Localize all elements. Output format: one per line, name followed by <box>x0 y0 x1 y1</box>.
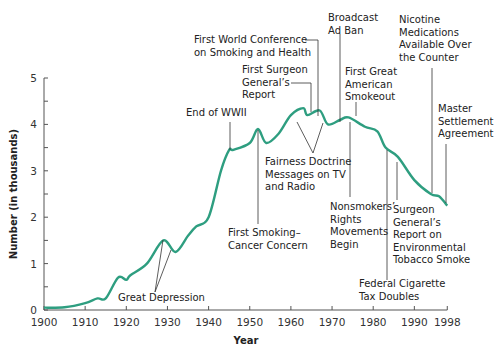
annotation-text: the Counter <box>399 52 459 63</box>
annotation-text: Federal Cigarette <box>359 278 445 289</box>
x-tick-label: 1980 <box>360 316 387 328</box>
annotation-text: General’s <box>393 217 441 228</box>
x-tick-label: 1970 <box>319 316 346 328</box>
annotation-first-great-american-smokeout: First GreatAmericanSmokeout <box>345 66 397 116</box>
x-tick-label: 1900 <box>31 316 58 328</box>
annotations: Great DepressionEnd of WWIIFirst Smoking… <box>118 12 494 303</box>
annotation-text: and Radio <box>265 181 315 192</box>
leader-line <box>313 123 323 153</box>
cigarette-consumption-line-chart: 1900191019201930194019501960197019801990… <box>0 0 504 354</box>
annotation-surgeon-general-ets: SurgeonGeneral’sReport onEnvironmentalTo… <box>392 162 470 265</box>
x-axis-title: Year <box>233 335 259 346</box>
annotation-text: Rights <box>330 214 362 225</box>
annotation-fairness-doctrine: Fairness DoctrineMessages on TVand Radio <box>265 122 351 192</box>
annotation-text: Cancer Concern <box>228 240 308 251</box>
y-tick-label: 3 <box>30 165 37 177</box>
x-tick-label: 1950 <box>236 316 263 328</box>
annotation-text: Ad Ban <box>328 25 364 36</box>
leader-line <box>297 122 313 153</box>
annotation-master-settlement: MasterSettlementAgreement <box>438 103 494 203</box>
annotation-text: General’s <box>242 77 290 88</box>
y-tick-label: 4 <box>30 118 37 130</box>
y-tick-label: 0 <box>30 304 37 316</box>
annotation-text: Begin <box>330 239 358 250</box>
annotation-text: First Great <box>345 66 397 77</box>
leader-line <box>155 250 171 292</box>
x-tick-label: 1910 <box>72 316 99 328</box>
x-tick-label: 1998 <box>434 316 461 328</box>
annotation-text: on Smoking and Health <box>194 47 311 58</box>
x-tick-label: 1960 <box>278 316 305 328</box>
annotation-text: Report on <box>393 229 442 240</box>
annotation-text: Messages on TV <box>265 169 346 180</box>
annotation-text: Fairness Doctrine <box>265 156 351 167</box>
annotation-text: Settlement <box>438 116 494 127</box>
annotation-first-surgeon-general: First SurgeonGeneral’sReport <box>242 64 311 112</box>
x-tick-label: 1930 <box>154 316 181 328</box>
x-tick-label: 1920 <box>113 316 140 328</box>
annotation-text: Nicotine <box>399 14 440 25</box>
annotation-text: Nonsmokers’ <box>330 201 395 212</box>
annotation-text: Master <box>438 103 473 114</box>
annotation-text: First World Conference <box>194 34 307 45</box>
annotation-text: Environmental <box>393 242 466 253</box>
annotation-text: Report <box>242 89 275 100</box>
annotation-text: Broadcast <box>328 12 378 23</box>
annotation-text: Medications <box>399 27 459 38</box>
annotation-first-world-conference: First World Conferenceon Smoking and Hea… <box>194 34 318 116</box>
x-tick-label: 1940 <box>195 316 222 328</box>
annotation-great-depression: Great Depression <box>118 240 205 303</box>
annotation-text: Movements <box>330 226 388 237</box>
annotation-text: Smokeout <box>345 91 395 102</box>
y-tick-label: 1 <box>30 258 37 270</box>
annotation-nonsmokers-rights: Nonsmokers’RightsMovementsBegin <box>330 122 395 250</box>
y-tick-label: 5 <box>30 72 37 84</box>
annotation-text: First Smoking– <box>228 227 301 238</box>
annotation-text: Tax Doubles <box>358 291 419 302</box>
annotation-text: Tobacco Smoke <box>392 254 470 265</box>
x-tick-label: 1990 <box>401 316 428 328</box>
annotation-text: Available Over <box>399 39 472 50</box>
annotation-text: Agreement <box>438 128 494 139</box>
annotation-text: Great Depression <box>118 292 205 303</box>
annotation-text: First Surgeon <box>242 64 308 75</box>
annotation-text: End of WWII <box>186 107 247 118</box>
annotation-end-wwii: End of WWII <box>186 107 247 150</box>
y-tick-label: 2 <box>30 211 37 223</box>
annotation-text: Surgeon <box>393 204 435 215</box>
y-axis-title: Number (in thousands) <box>8 129 19 259</box>
annotation-text: American <box>345 79 393 90</box>
